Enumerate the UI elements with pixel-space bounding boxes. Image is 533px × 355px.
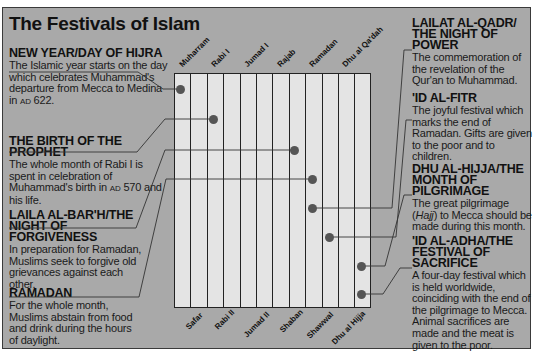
- festival-marker-id-al-fitr: [325, 233, 334, 242]
- festival-marker-month-of-pilgrimage: [357, 262, 366, 271]
- festival-marker-new-year: [176, 85, 185, 94]
- festival-marker-ramadan: [308, 175, 317, 184]
- festival-marker-id-al-adha: [357, 290, 366, 299]
- festival-marker-night-of-forgiveness: [290, 146, 299, 155]
- festival-marker-night-of-power: [308, 204, 317, 213]
- festival-marker-birth-of-prophet: [209, 115, 218, 124]
- connector-lines: [0, 0, 533, 355]
